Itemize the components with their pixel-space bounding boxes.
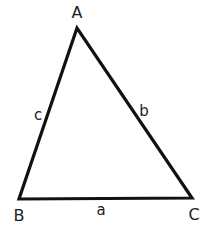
vertex-label-a: A — [72, 3, 83, 22]
triangle-abc — [19, 28, 192, 199]
triangle-diagram: A B C c b a — [0, 0, 212, 226]
vertex-label-b: B — [14, 206, 25, 225]
vertex-label-c: C — [188, 205, 199, 224]
side-label-a: a — [96, 201, 105, 219]
side-label-c: c — [34, 106, 42, 124]
side-label-b: b — [139, 102, 149, 120]
